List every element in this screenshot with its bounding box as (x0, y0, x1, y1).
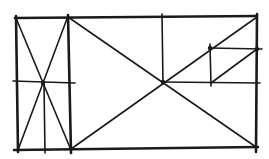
mid-vertical-line (162, 14, 163, 84)
center-cross-node (161, 80, 165, 84)
small-diag-line (211, 49, 257, 83)
small-horizontal-line (210, 48, 262, 49)
left-sub-vertical-line (44, 84, 45, 153)
small-cross-node (208, 46, 212, 50)
outer-bottom-line (14, 147, 258, 150)
outer-left-line (16, 16, 18, 152)
right-node-node (255, 47, 259, 51)
small-vertical-line (210, 44, 211, 86)
outer-top-line (15, 16, 257, 18)
left-inner-vertical-line (68, 15, 71, 153)
sketch-diagram (0, 0, 269, 159)
left-cross-node (41, 81, 45, 85)
nodes-layer (41, 46, 259, 85)
lines-layer (13, 14, 262, 153)
